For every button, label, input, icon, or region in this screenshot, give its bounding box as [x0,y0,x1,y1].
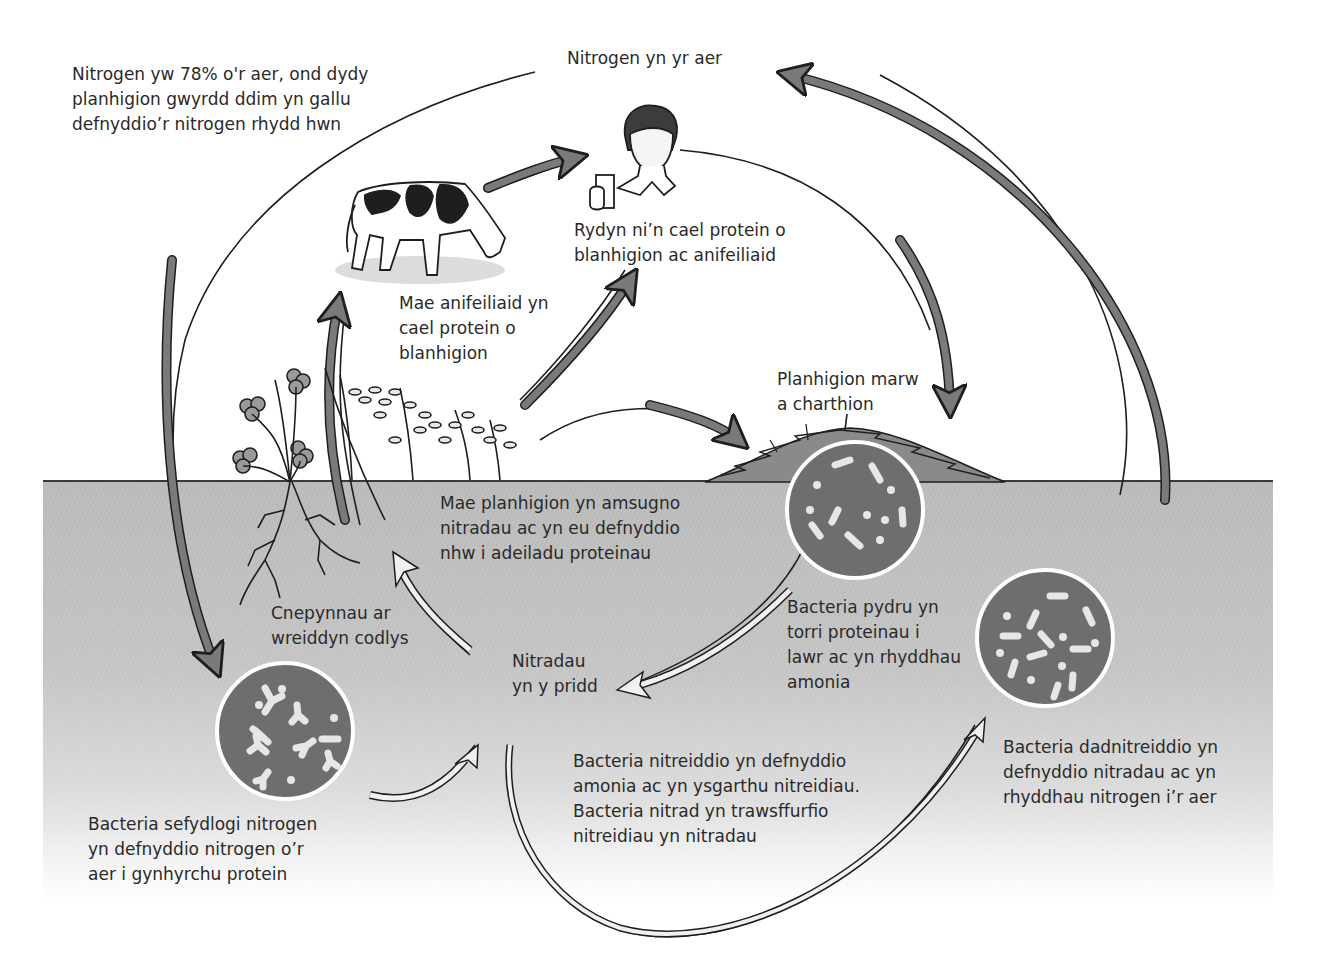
nitrogen-fixing-bacteria-disc-icon [217,663,353,799]
nitrogen-fixing-bacteria-label: Bacteria sefydlogi nitrogen yn defnyddio… [88,812,317,887]
decomposer-bacteria-label: Bacteria pydru yn torri proteinau i lawr… [787,595,961,695]
humans-protein-label: Rydyn ni’n cael protein o blanhigion ac … [574,218,786,268]
arrow-air-to-fixing-bacteria [167,260,215,665]
dead-plants-label: Planhigion marw a charthion [777,367,919,417]
root-nodules-label: Cnepynnau ar wreiddyn codlys [271,601,409,651]
person-icon [590,105,677,209]
animals-protein-label: Mae anifeiliaid yn cael protein o blanhi… [399,291,549,366]
plants-absorb-label: Mae planhigion yn amsugno nitradau ac yn… [440,491,680,566]
nitrogen-in-air-label: Nitrogen yn yr aer [567,46,722,71]
plants-icon [233,368,516,605]
decomposer-bacteria-disc-icon [787,442,923,578]
arrow-plants-to-dead-matter [650,405,738,440]
air-fact-label: Nitrogen yw 78% o'r aer, ond dydy planhi… [72,62,368,137]
nitrogen-cycle-diagram: Nitrogen yw 78% o'r aer, ond dydy planhi… [0,0,1321,974]
arrow-decomposers-to-nitrates [617,590,790,698]
nitrates-in-soil-label: Nitradau yn y pridd [512,649,598,699]
grazing-cow-icon [335,182,505,284]
denitrifying-bacteria-disc-icon [977,570,1113,706]
arrow-cow-to-human [488,158,575,188]
arrow-fixing-bacteria-to-nitrates [370,745,478,798]
denitrifying-bacteria-label: Bacteria dadnitreiddio yn defnyddio nitr… [1003,735,1218,810]
nitrifying-bacteria-label: Bacteria nitreiddio yn defnyddio amonia … [573,749,860,849]
